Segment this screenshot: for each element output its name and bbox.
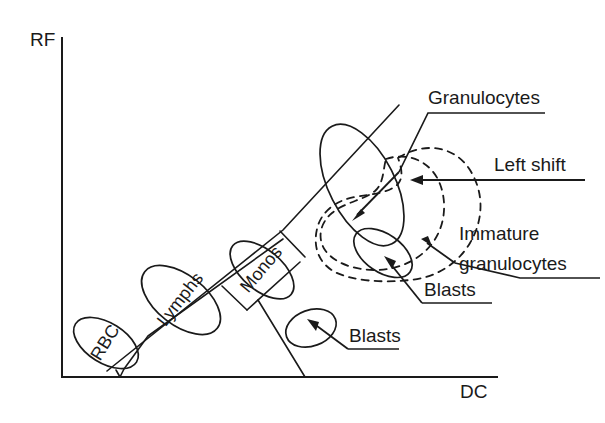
callout-labels: Granulocytes Left shift Immature granulo…: [349, 87, 567, 346]
callout-label-left-shift: Left shift: [494, 154, 567, 175]
arrow-line-immature: [427, 243, 455, 263]
callout-label-blasts-upper: Blasts: [424, 279, 476, 300]
callout-label-immature-line2: granulocytes: [459, 253, 567, 274]
gate-label-monos: Monos: [236, 242, 286, 296]
band-foot: [116, 370, 120, 377]
gate-ellipse-blasts-upper: [345, 219, 421, 288]
gate-ellipse-blasts-lower: [280, 302, 341, 354]
scattergram-figure: RBC Lymphs Monos: [0, 0, 605, 423]
callout-label-immature-line1: Immature: [459, 223, 539, 244]
arrow-head-granulocytes: [352, 209, 365, 221]
y-axis-label: RF: [30, 29, 55, 50]
arrow-line-granulocytes: [357, 172, 399, 215]
arrow-head-left-shift: [410, 175, 423, 185]
callout-label-blasts-lower: Blasts: [349, 325, 401, 346]
scattergram-canvas: RBC Lymphs Monos: [0, 0, 605, 423]
dashed-inner-region: [321, 157, 445, 270]
callout-label-granulocytes: Granulocytes: [428, 87, 540, 108]
gate-labels: RBC Lymphs Monos: [86, 242, 286, 364]
arrow-head-blasts-lower: [307, 319, 319, 331]
blast-region-divider: [258, 300, 305, 377]
arrow-line-blasts-upper: [389, 262, 422, 303]
arrow-head-immature: [421, 236, 432, 246]
x-axis-label: DC: [460, 381, 487, 402]
